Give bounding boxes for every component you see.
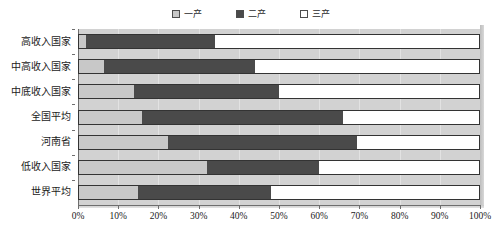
plot-right-plate <box>480 25 484 205</box>
x-axis-tick <box>118 205 119 209</box>
bar-segment[interactable] <box>78 34 86 49</box>
legend-item-secondary-industry[interactable]: 二产 <box>236 9 266 19</box>
x-axis-label: 60% <box>299 210 339 222</box>
y-axis-label: 中高收入国家 <box>11 61 71 73</box>
bar-segment[interactable] <box>78 59 104 74</box>
y-axis-label: 河南省 <box>41 136 71 148</box>
y-axis-tick <box>72 29 75 30</box>
y-axis-label: 世界平均 <box>31 186 71 198</box>
bar-segment[interactable] <box>142 110 343 125</box>
bar-segment[interactable] <box>343 110 480 125</box>
y-axis-tick <box>72 54 75 55</box>
x-axis-tick <box>78 205 79 209</box>
x-axis-label: 40% <box>219 210 259 222</box>
x-axis-label: 80% <box>380 210 420 222</box>
x-axis-label: 50% <box>259 210 299 222</box>
y-axis-labels: 高收入国家中高收入国家中底收入国家全国平均河南省低收入国家世界平均 <box>0 29 75 205</box>
bar-segment[interactable] <box>319 160 480 175</box>
bar-segment[interactable] <box>168 135 357 150</box>
x-axis-tick <box>480 205 481 209</box>
x-axis-ticks <box>78 205 480 209</box>
bar-segment[interactable] <box>138 185 271 200</box>
x-axis-label: 100% <box>460 210 500 222</box>
bar-segment[interactable] <box>207 160 320 175</box>
chart-legend: 一产 二产 三产 <box>0 6 501 22</box>
plot-area <box>78 29 480 205</box>
legend-item-primary-industry[interactable]: 一产 <box>172 9 202 19</box>
x-axis-tick <box>239 205 240 209</box>
bar-series-group <box>78 29 480 205</box>
bar-row <box>78 110 480 125</box>
legend-item-tertiary-industry[interactable]: 三产 <box>300 9 330 19</box>
bar-row <box>78 160 480 175</box>
x-axis-tick <box>319 205 320 209</box>
square-swatch-icon <box>300 10 308 18</box>
bar-row <box>78 185 480 200</box>
x-axis-label: 20% <box>138 210 178 222</box>
x-axis-label: 30% <box>179 210 219 222</box>
y-axis-label: 低收入国家 <box>21 161 71 173</box>
square-swatch-icon <box>172 10 180 18</box>
x-axis-tick <box>440 205 441 209</box>
x-axis-label: 90% <box>420 210 460 222</box>
y-axis-label: 高收入国家 <box>21 36 71 48</box>
bar-segment[interactable] <box>86 34 215 49</box>
bar-segment[interactable] <box>104 59 255 74</box>
y-axis-tick <box>72 130 75 131</box>
x-axis-label: 10% <box>98 210 138 222</box>
legend-label: 二产 <box>248 9 266 19</box>
bar-segment[interactable] <box>78 84 134 99</box>
x-axis-tick <box>279 205 280 209</box>
bar-segment[interactable] <box>78 185 138 200</box>
bar-row <box>78 34 480 49</box>
bar-row <box>78 135 480 150</box>
x-axis-labels: 0%10%20%30%40%50%60%70%80%90%100% <box>0 210 501 224</box>
bar-segment[interactable] <box>255 59 480 74</box>
legend-label: 一产 <box>184 9 202 19</box>
x-axis-tick <box>359 205 360 209</box>
y-axis-tick <box>72 79 75 80</box>
bar-segment[interactable] <box>215 34 480 49</box>
x-axis-tick <box>400 205 401 209</box>
x-axis-label: 70% <box>339 210 379 222</box>
y-axis-label: 中底收入国家 <box>11 86 71 98</box>
y-axis-tick <box>72 155 75 156</box>
bar-segment[interactable] <box>78 160 207 175</box>
bar-segment[interactable] <box>78 135 168 150</box>
bar-segment[interactable] <box>279 84 480 99</box>
x-axis-label: 0% <box>58 210 98 222</box>
bar-segment[interactable] <box>357 135 480 150</box>
bar-row <box>78 59 480 74</box>
x-axis-tick <box>199 205 200 209</box>
y-axis-label: 全国平均 <box>31 111 71 123</box>
square-swatch-icon <box>236 10 244 18</box>
bar-segment[interactable] <box>78 110 142 125</box>
y-axis-tick <box>72 180 75 181</box>
y-axis-tick <box>72 104 75 105</box>
stacked-bar-chart: 一产 二产 三产 高收入国家中高收入国家中底收入国家全国平均河南省低收入国家世界… <box>0 0 501 242</box>
bar-segment[interactable] <box>134 84 279 99</box>
x-axis-tick <box>158 205 159 209</box>
legend-label: 三产 <box>312 9 330 19</box>
bar-row <box>78 84 480 99</box>
bar-segment[interactable] <box>271 185 480 200</box>
